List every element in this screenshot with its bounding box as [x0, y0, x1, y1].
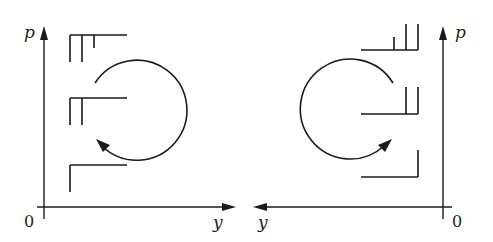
right-panel: p 0 y	[253, 22, 466, 232]
left-symbol-middle	[70, 98, 127, 125]
left-origin-label: 0	[24, 212, 34, 231]
left-symbol-bottom	[70, 165, 127, 192]
right-horizontal-axis	[253, 203, 452, 211]
right-horizontal-arrow-icon	[253, 203, 267, 211]
left-vertical-axis	[40, 26, 48, 219]
right-vertical-axis	[439, 26, 447, 219]
right-origin-label: 0	[452, 212, 462, 231]
left-horizontal-axis	[37, 203, 236, 211]
right-symbol-middle	[361, 87, 418, 114]
right-symbol-bottom	[361, 150, 418, 177]
left-y-label: y	[212, 212, 223, 232]
right-p-label: p	[455, 22, 466, 42]
left-symbol-top	[70, 35, 127, 62]
right-vertical-arrow-icon	[439, 26, 447, 40]
left-p-label: p	[24, 22, 35, 42]
right-symbol-top	[361, 24, 418, 50]
right-y-label: y	[257, 212, 268, 232]
diagram-canvas: p 0 y	[0, 0, 493, 242]
left-panel: p 0 y	[24, 22, 236, 232]
right-cycle-arrow	[300, 59, 393, 159]
left-horizontal-arrow-icon	[222, 203, 236, 211]
left-vertical-arrow-icon	[40, 26, 48, 40]
left-cycle-arrow	[95, 60, 187, 160]
